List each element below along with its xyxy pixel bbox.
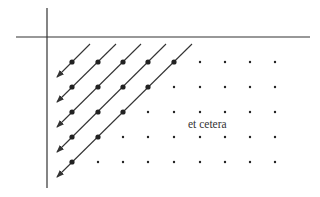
visited-point — [145, 59, 150, 64]
visited-point — [95, 109, 100, 114]
visited-point — [69, 84, 74, 89]
grid-point — [249, 61, 251, 63]
grid-point — [249, 136, 251, 138]
visited-point — [69, 109, 74, 114]
visited-point — [69, 134, 74, 139]
grid-point — [274, 111, 276, 113]
grid-point — [224, 161, 226, 163]
grid-point — [249, 86, 251, 88]
grid-point — [199, 86, 201, 88]
visited-point — [171, 59, 176, 64]
grid-point — [199, 161, 201, 163]
et-cetera-label: et cetera — [188, 118, 227, 130]
visited-point — [69, 159, 74, 164]
visited-point — [120, 59, 125, 64]
grid-point — [224, 111, 226, 113]
visited-point — [95, 59, 100, 64]
visited-point — [95, 134, 100, 139]
visited-point — [69, 59, 74, 64]
grid-point — [199, 111, 201, 113]
grid-point — [224, 136, 226, 138]
grid-point — [274, 86, 276, 88]
diagonal-arrow — [57, 44, 116, 102]
grid-point — [173, 86, 175, 88]
grid-point — [173, 161, 175, 163]
grid-point — [274, 61, 276, 63]
grid-point — [122, 136, 124, 138]
grid-point — [224, 86, 226, 88]
grid-point — [249, 111, 251, 113]
grid-point — [274, 136, 276, 138]
grid-point — [147, 111, 149, 113]
visited-point — [145, 84, 150, 89]
grid-point — [199, 136, 201, 138]
grid-point — [147, 161, 149, 163]
grid-point — [173, 111, 175, 113]
grid-point — [274, 161, 276, 163]
grid-point — [249, 161, 251, 163]
grid-dots — [69, 59, 276, 164]
grid-point — [147, 136, 149, 138]
grid-point — [199, 61, 201, 63]
grid-point — [97, 161, 99, 163]
enumeration-diagram: et cetera — [0, 0, 320, 197]
visited-point — [95, 84, 100, 89]
grid-point — [122, 161, 124, 163]
grid-point — [224, 61, 226, 63]
visited-point — [120, 109, 125, 114]
visited-point — [120, 84, 125, 89]
grid-point — [173, 136, 175, 138]
